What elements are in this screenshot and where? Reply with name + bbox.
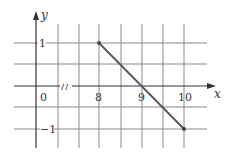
y-axis [33,11,39,148]
y-axis-label: y [40,8,48,22]
x-axis-label: x [214,87,221,101]
tick-label-0: 0 [40,91,47,104]
tick-label-9: 9 [138,91,145,104]
data-point-end [182,127,186,131]
x-axis [14,83,216,89]
axis-break: ≀≀ [60,81,68,92]
graph: ≀≀ y x 1 −1 0 8 9 10 [0,0,232,154]
data-point-start [97,41,101,45]
tick-label-y1: 1 [39,37,46,50]
tick-label-yneg1: −1 [40,123,56,136]
tick-label-10: 10 [178,91,192,104]
tick-label-8: 8 [95,91,102,104]
